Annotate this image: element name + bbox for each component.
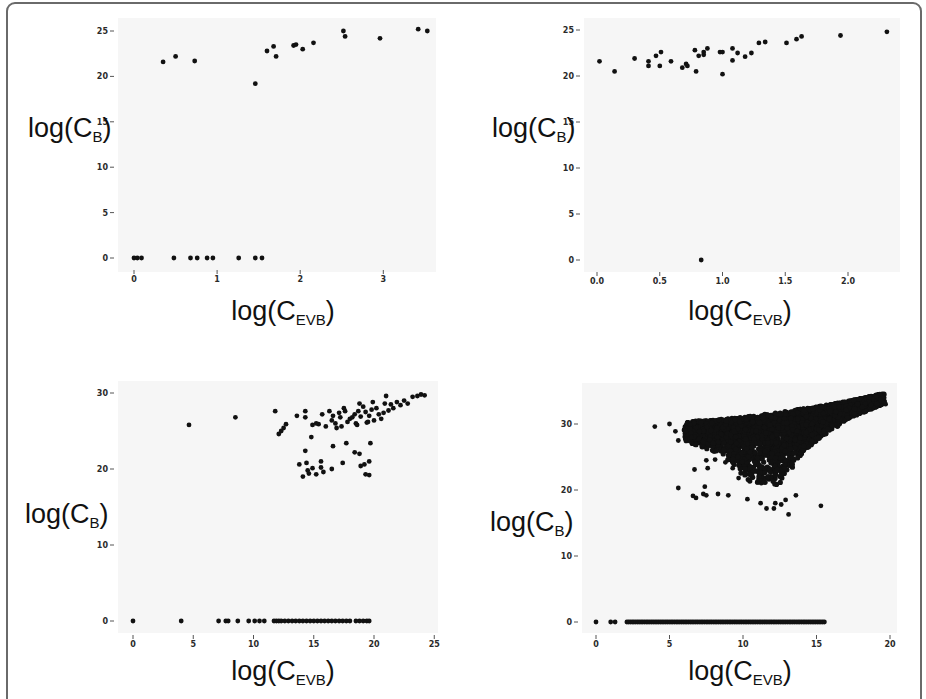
y-axis-title-subscript: B: [555, 522, 565, 539]
data-point: [733, 434, 738, 439]
data-point: [762, 470, 767, 475]
data-point: [717, 417, 722, 422]
data-point: [757, 420, 762, 425]
data-point: [793, 437, 798, 442]
data-point: [804, 430, 809, 435]
data-point: [732, 429, 737, 434]
data-point: [733, 446, 738, 451]
data-point: [827, 409, 832, 414]
data-point: [756, 474, 761, 479]
data-point: [784, 420, 789, 425]
data-point: [673, 429, 678, 434]
data-point: [795, 410, 800, 415]
data-point: [768, 470, 773, 475]
data-point: [744, 416, 749, 421]
data-point: [746, 454, 751, 459]
data-point: [745, 441, 750, 446]
data-point: [837, 404, 842, 409]
data-point: [776, 426, 781, 431]
data-point: [724, 418, 729, 423]
data-point: [790, 462, 795, 467]
x-axis-title-subscript: EVB: [753, 671, 783, 688]
data-point: [795, 455, 800, 460]
data-point: [794, 429, 799, 434]
data-point: [692, 467, 697, 472]
data-point: [743, 436, 748, 441]
data-point: [762, 449, 767, 454]
data-point: [857, 396, 862, 401]
data-point: [867, 394, 872, 399]
data-point: [771, 479, 776, 484]
data-point: [693, 442, 698, 447]
data-point: [613, 620, 618, 625]
y-tick-label: 20: [561, 486, 573, 495]
x-tick-label: 15: [811, 640, 823, 649]
data-point: [773, 473, 778, 478]
data-point: [723, 460, 728, 465]
data-point: [844, 408, 849, 413]
x-axis-title-main: log(C: [688, 656, 753, 686]
data-point: [806, 444, 811, 449]
data-point: [782, 449, 787, 454]
data-point: [819, 503, 824, 508]
data-point: [778, 411, 783, 416]
data-point: [704, 493, 709, 498]
data-point: [735, 455, 740, 460]
data-point: [780, 454, 785, 459]
data-point: [803, 422, 808, 427]
data-point: [742, 472, 747, 477]
data-point: [860, 405, 865, 410]
y-axis-title-end: ): [565, 507, 574, 537]
data-point: [773, 440, 778, 445]
data-point: [755, 455, 760, 460]
y-tick-label: 10: [561, 552, 573, 561]
data-point: [745, 497, 750, 502]
data-point: [845, 415, 850, 420]
data-point: [830, 423, 835, 428]
data-point: [688, 422, 693, 427]
data-point: [769, 451, 774, 456]
data-point: [809, 438, 814, 443]
data-point: [804, 414, 809, 419]
data-point: [758, 501, 763, 506]
data-point: [809, 432, 814, 437]
data-point: [838, 411, 843, 416]
data-point: [772, 506, 777, 511]
data-point: [714, 448, 719, 453]
data-point: [767, 422, 772, 427]
data-point: [794, 493, 799, 498]
data-point: [594, 620, 599, 625]
data-point: [740, 459, 745, 464]
data-point: [689, 435, 694, 440]
data-point: [716, 492, 721, 497]
data-point: [734, 441, 739, 446]
data-point: [786, 512, 791, 517]
x-axis-title: log(CEVB): [688, 656, 792, 688]
data-point: [802, 408, 807, 413]
data-point: [809, 421, 814, 426]
data-point: [752, 460, 757, 465]
data-point: [721, 447, 726, 452]
data-point: [816, 435, 821, 440]
data-point: [820, 419, 825, 424]
x-tick-label: 0: [593, 640, 599, 649]
x-axis-title-end: ): [783, 656, 792, 686]
data-point: [810, 407, 815, 412]
y-axis-title-main: log(C: [490, 507, 555, 537]
data-point: [709, 420, 714, 425]
data-point: [808, 415, 813, 420]
data-point: [667, 422, 672, 427]
data-point: [783, 498, 788, 503]
data-point: [765, 412, 770, 417]
y-tick-label: 0: [566, 618, 572, 627]
data-point: [778, 480, 783, 485]
data-point: [833, 409, 838, 414]
x-tick-label: 20: [884, 640, 896, 649]
x-tick-label: 10: [737, 640, 749, 649]
data-point: [702, 484, 707, 489]
data-point: [765, 440, 770, 445]
data-point: [883, 402, 888, 407]
y-tick-label: 30: [561, 420, 573, 429]
data-point: [713, 457, 718, 462]
data-point: [782, 443, 787, 448]
